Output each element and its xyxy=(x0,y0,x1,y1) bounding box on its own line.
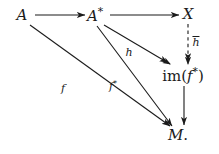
edge-Astar-to-imf xyxy=(104,25,170,64)
edge-label-A-to-M: f xyxy=(61,83,65,94)
edge-label-Astar-to-imf: h xyxy=(125,47,132,58)
node-label-imf: im(f*) xyxy=(162,67,204,84)
edge-label-Astar-to-M: f* xyxy=(109,80,117,93)
edge-A-to-M xyxy=(30,25,170,126)
node-label-Astar: A* xyxy=(87,7,103,24)
edge-Astar-to-M xyxy=(97,26,172,126)
node-label-X: X xyxy=(183,7,194,22)
commutative-diagram: AA*Xim(f*)M. hhff* xyxy=(0,0,219,154)
edge-label-X-to-imf: h xyxy=(192,36,199,48)
node-label-M: M. xyxy=(168,128,188,143)
node-label-A: A xyxy=(17,8,28,23)
